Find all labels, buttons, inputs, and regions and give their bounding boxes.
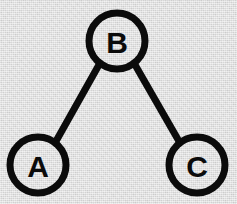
- node-b[interactable]: B: [89, 13, 145, 69]
- node-c-label: C: [186, 150, 208, 183]
- edge-b-a: [55, 63, 100, 143]
- edge-group: [55, 63, 180, 143]
- node-b-label: B: [106, 26, 128, 59]
- node-a[interactable]: A: [10, 137, 66, 193]
- diagram-canvas: B A C: [0, 0, 237, 204]
- edge-b-c: [134, 63, 180, 143]
- graph-diagram: B A C: [0, 0, 237, 204]
- node-a-label: A: [27, 150, 49, 183]
- node-c[interactable]: C: [169, 137, 225, 193]
